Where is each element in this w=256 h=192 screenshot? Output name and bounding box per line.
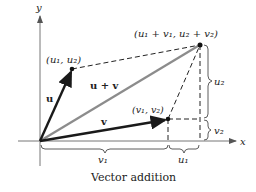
x-axis-label: x <box>240 136 246 147</box>
brace-u2-label: u₂ <box>214 76 224 87</box>
sum-point <box>198 43 203 48</box>
brace-u1 <box>169 145 199 153</box>
u-point <box>70 67 75 72</box>
caption: Vector addition <box>90 171 176 184</box>
u-point-label: (u₁, u₂) <box>46 54 81 65</box>
brace-v1-label: v₁ <box>98 154 108 165</box>
vector-addition-diagram: y x (u₁, u₂) (v₁, v₂) (u₁ + v₁, u₂ + v₂)… <box>0 0 256 192</box>
brace-v2 <box>204 120 211 140</box>
sum-point-label: (u₁ + v₁, u₂ + v₂) <box>134 28 218 39</box>
axes: y x <box>18 2 246 166</box>
y-axis-label: y <box>35 2 42 13</box>
brace-v2-label: v₂ <box>214 125 224 136</box>
v-point-label: (v₁, v₂) <box>132 104 164 115</box>
sum-vector-label: u + v <box>90 80 120 91</box>
v-vector-label: v <box>100 116 108 127</box>
dash-v-to-sum <box>168 45 200 119</box>
brace-u2 <box>204 45 212 118</box>
u-vector-label: u <box>46 93 53 104</box>
brace-u1-label: u₁ <box>178 154 188 165</box>
v-point <box>166 117 171 122</box>
construction-lines <box>72 45 200 141</box>
brace-v1 <box>41 145 168 153</box>
